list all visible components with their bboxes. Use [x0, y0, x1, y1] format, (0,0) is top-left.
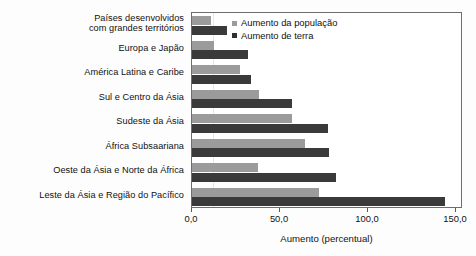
x-tick-mark — [191, 208, 192, 212]
bar-land — [192, 124, 328, 133]
category-label-line: África Subsaariana — [0, 141, 184, 151]
legend-item: Aumento da população — [232, 17, 337, 30]
category-label: América Latina e Caribe — [0, 67, 184, 77]
bar-land — [192, 50, 248, 59]
bar-land — [192, 173, 336, 182]
category-label: África Subsaariana — [0, 141, 184, 151]
chart-legend: Aumento da populaçãoAumento de terra — [232, 17, 337, 42]
bar-population — [192, 114, 292, 123]
bar-population — [192, 16, 211, 25]
bar-group — [192, 90, 461, 109]
bar-land — [192, 148, 329, 157]
bar-land — [192, 26, 227, 35]
category-label-line: com grandes territórios — [0, 23, 184, 33]
bar-group — [192, 114, 461, 133]
bar-population — [192, 139, 305, 148]
category-label: Países desenvolvidoscom grandes territór… — [0, 13, 184, 34]
x-tick-label: 150,0 — [443, 213, 466, 224]
bar-population — [192, 163, 258, 172]
category-label-line: América Latina e Caribe — [0, 67, 184, 77]
legend-swatch-icon — [232, 21, 237, 26]
bar-population — [192, 90, 259, 99]
legend-label: Aumento da população — [241, 17, 337, 30]
category-label: Sudeste da Ásia — [0, 116, 184, 126]
bar-group — [192, 65, 461, 84]
x-tick-mark — [455, 208, 456, 212]
legend-item: Aumento de terra — [232, 30, 337, 43]
category-axis: Países desenvolvidoscom grandes territór… — [0, 12, 188, 208]
x-tick-mark — [279, 208, 280, 212]
category-label-line: Oeste da Ásia e Norte da África — [0, 165, 184, 175]
category-label: Europa e Japão — [0, 43, 184, 53]
category-label-line: Sul e Centro da Ásia — [0, 92, 184, 102]
category-label: Leste da Ásia e Região do Pacífico — [0, 190, 184, 200]
bar-population — [192, 41, 214, 50]
bar-land — [192, 197, 445, 206]
legend-swatch-icon — [232, 33, 237, 38]
x-tick-label: 100,0 — [355, 213, 378, 224]
bar-land — [192, 75, 251, 84]
bar-group — [192, 188, 461, 207]
x-tick-label: 0,0 — [184, 213, 197, 224]
category-label-line: Europa e Japão — [0, 43, 184, 53]
category-label: Oeste da Ásia e Norte da África — [0, 165, 184, 175]
category-label-line: Países desenvolvidos — [0, 13, 184, 23]
x-tick-label: 50,0 — [270, 213, 288, 224]
x-axis-title: Aumento (percentual) — [191, 233, 462, 244]
legend-label: Aumento de terra — [241, 30, 313, 43]
bar-chart: Países desenvolvidoscom grandes territór… — [0, 0, 476, 256]
x-tick-mark — [367, 208, 368, 212]
category-label-line: Sudeste da Ásia — [0, 116, 184, 126]
bar-population — [192, 188, 319, 197]
category-label: Sul e Centro da Ásia — [0, 92, 184, 102]
bar-population — [192, 65, 240, 74]
x-axis: 0,050,0100,0150,0 — [191, 208, 462, 226]
bar-group — [192, 163, 461, 182]
bar-group — [192, 41, 461, 60]
bar-group — [192, 139, 461, 158]
category-label-line: Leste da Ásia e Região do Pacífico — [0, 190, 184, 200]
bar-land — [192, 99, 292, 108]
